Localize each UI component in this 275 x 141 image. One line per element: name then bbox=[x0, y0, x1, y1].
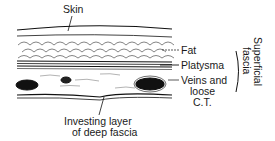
superficial-fascia-bracket bbox=[236, 51, 239, 92]
deep-fascia-layer bbox=[17, 94, 172, 100]
label-fascia: fascia bbox=[241, 47, 252, 74]
label-platysma: Platysma bbox=[181, 60, 224, 71]
vein-left bbox=[16, 80, 38, 90]
platysma-layer bbox=[17, 61, 172, 70]
label-superficial: Superficial bbox=[252, 37, 263, 86]
skin-leader bbox=[68, 16, 72, 31]
label-skin: Skin bbox=[63, 4, 83, 15]
loose-connective-tissue bbox=[40, 74, 135, 88]
skin-layer bbox=[17, 26, 172, 30]
vein-small bbox=[61, 77, 71, 83]
tissue-layers-illustration bbox=[0, 0, 275, 141]
fat-layer bbox=[18, 42, 174, 58]
label-veins-line3: C.T. bbox=[193, 97, 212, 108]
label-fat: Fat bbox=[181, 45, 196, 56]
label-investing-line2: of deep fascia bbox=[72, 127, 137, 138]
vein-right bbox=[136, 78, 164, 90]
